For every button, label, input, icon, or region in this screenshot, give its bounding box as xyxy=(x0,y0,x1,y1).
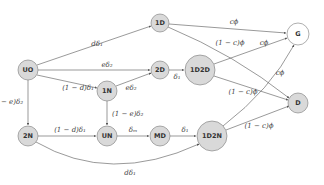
label-2n-un: (1 − d)δ₁ xyxy=(54,126,86,134)
label-uo-2n: (1 − e)δ₂ xyxy=(0,98,23,106)
node-1d2n-label: 1D2N xyxy=(202,132,222,140)
label-uo-1d: dδ₁ xyxy=(91,40,103,48)
label-uo-1n: (1 − d)δ₁ xyxy=(62,84,94,92)
node-2n-label: 2N xyxy=(23,132,33,140)
node-un-label: UN xyxy=(102,132,113,140)
edge-2n-1d2n xyxy=(36,142,199,164)
label-2d-1d2d: δ₁ xyxy=(173,73,180,81)
node-g: G xyxy=(287,23,309,45)
label-uo-2d: eδ₂ xyxy=(101,61,112,69)
node-1d2d-label: 1D2D xyxy=(190,66,210,74)
node-1n-label: 1N xyxy=(102,87,112,95)
label-1d-g: cϕ xyxy=(230,18,239,26)
label-1n-2d: eδ₂ xyxy=(125,84,136,92)
label-1d2d-g: cϕ xyxy=(260,39,269,47)
node-uo-label: UO xyxy=(23,66,34,74)
node-d: D xyxy=(288,93,308,113)
node-2d-label: 2D xyxy=(155,66,166,74)
state-transition-diagram: dδ₁ eδ₂ (1 − d)δ₁ (1 − e)δ₂ eδ₂ (1 − e)δ… xyxy=(0,0,324,185)
node-d-label: D xyxy=(295,99,301,107)
node-un: UN xyxy=(97,126,117,146)
label-1d2n-g: cϕ xyxy=(276,69,285,77)
edge-1d-g xyxy=(169,24,286,33)
label-1d-d: (1 − c)ϕ xyxy=(216,39,245,47)
node-2n: 2N xyxy=(18,126,38,146)
label-un-md: δₘ xyxy=(129,126,138,134)
node-1d2n: 1D2N xyxy=(197,121,227,151)
node-1d2d: 1D2D xyxy=(185,55,215,85)
node-2d: 2D xyxy=(151,61,169,79)
node-md-label: MD xyxy=(154,132,166,140)
label-1n-un: (1 − e)δ₂ xyxy=(112,110,144,118)
label-md-1d2n: δ₁ xyxy=(181,126,188,134)
node-1d: 1D xyxy=(151,14,169,32)
edge-labels: dδ₁ eδ₂ (1 − d)δ₁ (1 − e)δ₂ eδ₂ (1 − e)δ… xyxy=(0,18,285,177)
node-md: MD xyxy=(150,126,170,146)
node-uo: UO xyxy=(18,60,38,80)
label-2n-1d2n: dδ₁ xyxy=(124,169,136,177)
label-1d2n-d: (1 − c)ϕ xyxy=(245,122,274,130)
node-1n: 1N xyxy=(97,81,117,101)
node-1d-label: 1D xyxy=(155,19,166,27)
node-g-label: G xyxy=(295,30,300,38)
label-1d2d-d: (1 − c)ϕ xyxy=(229,88,258,96)
